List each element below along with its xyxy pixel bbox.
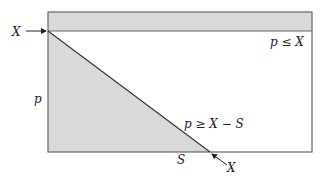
label-p-le-x: p ≤ X: [270, 35, 304, 49]
label-p-axis: p: [34, 92, 42, 106]
label-s-axis: S: [177, 153, 185, 167]
label-p-ge-x-minus-s: p ≥ X − S: [184, 117, 244, 131]
label-x-bottom: X: [226, 161, 236, 175]
diagram-canvas: X p ≤ X p p ≥ X − S S X: [0, 0, 329, 178]
label-x-left: X: [11, 25, 21, 39]
x-bottom-arrow-icon: [212, 154, 227, 165]
top-band-region: [48, 12, 312, 31]
